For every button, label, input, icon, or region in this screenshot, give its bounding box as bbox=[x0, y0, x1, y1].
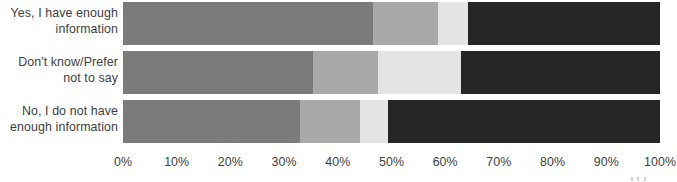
category-label-no: No, I do not have enough information bbox=[0, 104, 118, 135]
x-axis-tick-label: 40% bbox=[308, 155, 368, 169]
category-label-line: No, I do not have bbox=[0, 104, 118, 120]
category-label-yes: Yes, I have enough information bbox=[0, 6, 118, 37]
plot-area bbox=[123, 0, 660, 150]
bar-row bbox=[123, 2, 660, 45]
bar-segment bbox=[123, 2, 373, 45]
bar-row bbox=[123, 100, 660, 143]
bar-segment bbox=[388, 100, 660, 143]
bar-segment bbox=[373, 2, 438, 45]
x-axis-tick-label: 80% bbox=[523, 155, 583, 169]
bar-segment bbox=[378, 51, 461, 94]
category-label-line: enough information bbox=[0, 120, 118, 136]
bar-segment bbox=[313, 51, 378, 94]
bar-row bbox=[123, 51, 660, 94]
x-axis-tick-label: 90% bbox=[576, 155, 636, 169]
category-label-line: information bbox=[0, 22, 118, 38]
category-label-line: Yes, I have enough bbox=[0, 6, 118, 22]
x-axis-tick-label: 100% bbox=[630, 155, 677, 169]
x-axis-tick-label: 20% bbox=[200, 155, 260, 169]
category-label-line: not to say bbox=[0, 71, 118, 87]
stacked-bar-chart: Yes, I have enough information Don't kno… bbox=[0, 0, 677, 182]
x-axis: 0%10%20%30%40%50%60%70%80%90%100% bbox=[123, 150, 660, 182]
bar-segment bbox=[123, 100, 300, 143]
corner-artifact bbox=[631, 174, 671, 181]
x-axis-tick-label: 10% bbox=[147, 155, 207, 169]
category-label-line: Don't know/Prefer bbox=[0, 55, 118, 71]
x-axis-tick-label: 50% bbox=[362, 155, 422, 169]
bar-segment bbox=[461, 51, 660, 94]
x-axis-tick-label: 60% bbox=[415, 155, 475, 169]
bar-segment bbox=[123, 51, 313, 94]
x-axis-tick-label: 70% bbox=[469, 155, 529, 169]
bar-segment bbox=[300, 100, 360, 143]
bar-segment bbox=[360, 100, 388, 143]
bar-segment bbox=[438, 2, 468, 45]
x-axis-tick-label: 0% bbox=[93, 155, 153, 169]
bar-segment bbox=[468, 2, 660, 45]
category-label-dont-know: Don't know/Prefer not to say bbox=[0, 55, 118, 86]
x-axis-tick-label: 30% bbox=[254, 155, 314, 169]
category-axis-labels: Yes, I have enough information Don't kno… bbox=[0, 0, 118, 150]
